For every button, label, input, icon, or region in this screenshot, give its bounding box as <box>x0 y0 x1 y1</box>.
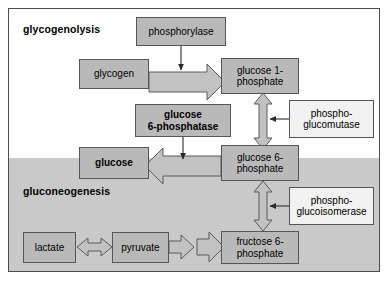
node-phosphoglucoisomerase[interactable]: phospho-glucoisomerase <box>289 187 374 225</box>
node-glucose-6-phosphatase[interactable]: glucose6-phosphatase <box>135 104 231 137</box>
node-label: pyruvate <box>121 242 159 254</box>
arrow-pyruvate-to-fructose-6-phosphate-1 <box>169 235 194 259</box>
node-label: phospho-glucoisomerase <box>296 195 366 218</box>
node-glucose-6-phosphate[interactable]: glucose 6-phosphate <box>221 145 299 181</box>
node-pyruvate[interactable]: pyruvate <box>112 232 169 263</box>
node-label: phosphorylase <box>148 26 213 38</box>
node-fructose-6-phosphate[interactable]: fructose 6-phosphate <box>221 231 299 264</box>
arrow-fructose-6-phosphate-to-glucose-6-phosphate <box>254 181 272 231</box>
node-glucose[interactable]: glucose <box>79 147 149 179</box>
pathway-diagram: glycogenolysis gluconeogenesis phosphory… <box>0 0 391 282</box>
arrow-glucose-1-phosphate-to-glucose-6-phosphate <box>254 93 272 149</box>
arrow-lactate-to-pyruvate <box>77 238 112 256</box>
arrow-glycogen-to-glucose-1-phosphate <box>149 64 225 100</box>
node-glucose-1-phosphate[interactable]: glucose 1-phosphate <box>221 58 299 94</box>
node-phosphoglucomutase[interactable]: phospho-glucomutase <box>289 100 374 138</box>
section-label-gluconeogenesis: gluconeogenesis <box>23 185 110 197</box>
node-label: glycogen <box>94 68 134 80</box>
node-label: glucose6-phosphatase <box>148 109 219 132</box>
node-label: glucose 6-phosphate <box>237 152 284 175</box>
node-label: lactate <box>35 242 64 254</box>
node-phosphorylase[interactable]: phosphorylase <box>136 17 226 46</box>
node-glycogen[interactable]: glycogen <box>79 59 149 89</box>
section-label-glycogenolysis: glycogenolysis <box>23 23 100 35</box>
node-label: fructose 6-phosphate <box>236 236 283 259</box>
arrow-pyruvate-to-fructose-6-phosphate-2 <box>197 232 224 262</box>
node-lactate[interactable]: lactate <box>23 232 76 263</box>
diagram-frame: glycogenolysis gluconeogenesis phosphory… <box>8 8 380 272</box>
node-label: phospho-glucomutase <box>303 108 360 131</box>
node-label: glucose 1-phosphate <box>237 65 284 88</box>
node-label: glucose <box>95 157 133 169</box>
